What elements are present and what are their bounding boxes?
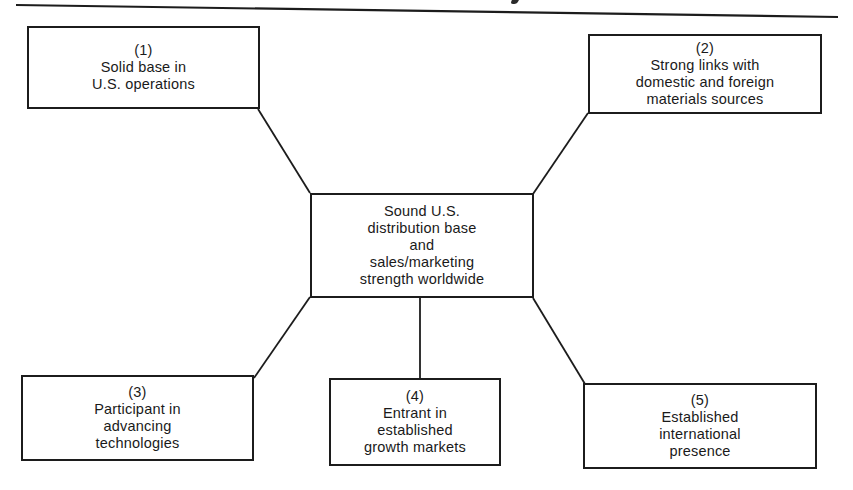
center-text: and: [410, 237, 435, 254]
center-text: sales/marketing: [370, 254, 475, 271]
edge-center-to-node-3: [254, 297, 310, 378]
node-text: domestic and foreign: [636, 74, 775, 91]
node-text: Participant in: [94, 401, 181, 418]
node-4: (4) Entrant in established growth market…: [329, 378, 501, 466]
edge-center-to-node-1: [258, 109, 310, 193]
node-number: (4): [406, 388, 424, 405]
node-number: (5): [691, 392, 709, 409]
node-text: technologies: [96, 435, 180, 452]
node-1: (1) Solid base in U.S. operations: [27, 26, 260, 109]
node-text: Solid base in: [101, 59, 187, 76]
node-3: (3) Participant in advancing technologie…: [21, 375, 254, 461]
node-text: materials sources: [646, 91, 763, 108]
center-text: Sound U.S.: [384, 203, 460, 220]
node-text: growth markets: [364, 439, 466, 456]
node-5: (5) Established international presence: [583, 383, 817, 469]
node-number: (2): [696, 40, 714, 57]
node-text: advancing: [104, 418, 172, 435]
node-text: Strong links with: [651, 57, 760, 74]
edge-center-to-node-2: [533, 113, 588, 194]
node-text: presence: [669, 443, 730, 460]
node-text: established: [377, 422, 453, 439]
node-text: Entrant in: [383, 405, 447, 422]
center-text: distribution base: [368, 220, 477, 237]
node-text: international: [659, 426, 741, 443]
node-number: (3): [128, 384, 146, 401]
node-text: Established: [661, 409, 738, 426]
edge-center-to-node-5: [533, 298, 585, 384]
center-text: strength worldwide: [360, 271, 485, 288]
node-number: (1): [134, 42, 152, 59]
node-text: U.S. operations: [92, 76, 195, 93]
header-rule: [16, 5, 838, 17]
node-2: (2) Strong links with domestic and forei…: [588, 34, 822, 114]
center-node: Sound U.S. distribution base and sales/m…: [310, 193, 534, 298]
